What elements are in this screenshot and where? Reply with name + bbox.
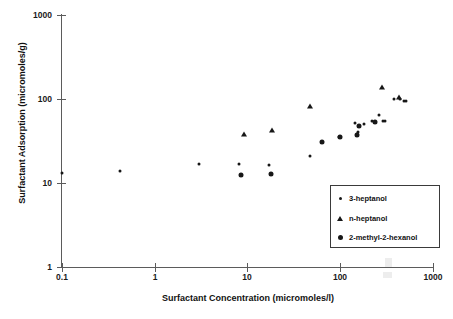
data-point-2-methyl-2-hexanol [319,139,324,144]
x-tick-10 [247,263,248,272]
data-point-2-methyl-2-hexanol [337,135,342,140]
x-tick-1 [155,263,156,272]
x-axis-title: Surfactant Concentration (micromoles/l) [62,293,434,303]
data-point-n-heptanol [241,132,247,137]
data-point-3-heptanol [392,98,395,101]
legend-label-n-heptanol: n-heptanol [349,214,387,223]
legend-marker-triangle-icon [331,216,349,221]
x-tick-label-0.1: 0.1 [42,272,82,282]
data-point-2-methyl-2-hexanol [356,123,361,128]
data-point-2-methyl-2-hexanol [372,120,377,125]
y-axis-title: Surfactant Adsorption (micromoles/g) [17,23,27,223]
legend-entry-n-heptanol[interactable]: n-heptanol [331,208,439,229]
data-point-3-heptanol [377,114,380,117]
scan-artifact [383,272,392,278]
legend-marker-large-dot-icon [331,235,349,240]
x-tick-label-10: 10 [227,272,267,282]
x-tick-100 [340,263,341,272]
data-point-3-heptanol [308,154,311,157]
data-point-2-methyl-2-hexanol [354,133,359,138]
x-tick-label-1: 1 [135,272,175,282]
y-tick-label-1: 1 [12,262,52,272]
data-point-n-heptanol [379,84,385,89]
data-point-3-heptanol [198,162,201,165]
legend-entry-3-heptanol[interactable]: 3-heptanol [331,188,439,209]
data-point-3-heptanol [268,163,271,166]
data-point-3-heptanol [61,172,64,175]
y-tick-1000 [57,15,66,16]
scan-artifact [385,258,392,267]
legend-marker-small-dot-icon [331,197,349,200]
data-point-3-heptanol [118,169,121,172]
y-tick-100 [57,99,66,100]
data-point-n-heptanol [307,104,313,109]
y-axis-line [61,14,62,268]
data-point-2-methyl-2-hexanol [239,172,244,177]
data-point-3-heptanol [384,120,387,123]
data-point-n-heptanol [269,127,275,132]
data-point-n-heptanol [396,94,402,99]
x-tick-label-100: 100 [320,272,360,282]
x-tick-label-1000: 1000 [413,272,453,282]
y-tick-label-1000: 1000 [12,10,52,20]
chart-page: 1000 100 10 1 0.1 1 10 100 1000 Surfacta… [0,0,453,319]
data-point-3-heptanol [405,99,408,102]
x-tick-1000 [433,263,434,272]
legend: 3-heptanol n-heptanol 2-methyl-2-hexanol [330,185,440,248]
data-point-2-methyl-2-hexanol [268,171,273,176]
y-tick-10 [57,183,66,184]
data-point-3-heptanol [237,162,240,165]
legend-label-3-heptanol: 3-heptanol [349,194,387,203]
legend-entry-2-methyl-2-hexanol[interactable]: 2-methyl-2-hexanol [331,227,439,248]
legend-label-2-methyl-2-hexanol: 2-methyl-2-hexanol [349,233,417,242]
x-tick-0.1 [62,263,63,272]
data-point-3-heptanol [362,123,365,126]
